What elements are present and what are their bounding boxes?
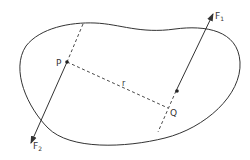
label-r: r: [122, 79, 126, 88]
distance-r-line: [67, 62, 168, 108]
body-outline: [20, 23, 240, 145]
label-f1: F1: [215, 11, 224, 22]
force1-arrow: [176, 14, 213, 91]
label-p: P: [56, 58, 62, 68]
label-f1-sub: 1: [220, 15, 224, 22]
label-f2: F2: [33, 141, 42, 152]
label-q: Q: [170, 108, 177, 118]
rigid-body-diagram: P r Q F1 F2: [0, 0, 250, 160]
force2-arrow: [31, 62, 67, 143]
line-of-action-p: [67, 24, 83, 62]
force1-application-dot: [175, 89, 179, 93]
point-p-dot: [65, 60, 69, 64]
label-f2-sub: 2: [38, 145, 42, 152]
